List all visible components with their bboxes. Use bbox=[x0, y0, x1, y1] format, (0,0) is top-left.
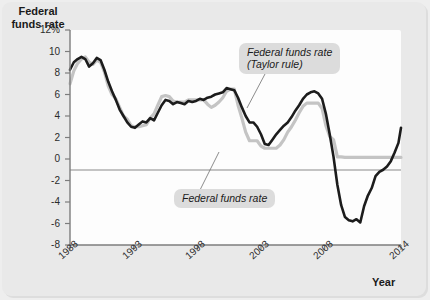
y-tick-label: -6 bbox=[26, 218, 60, 229]
callout-leader-line bbox=[247, 74, 265, 108]
x-axis-title: Year bbox=[372, 276, 412, 289]
axis-frame bbox=[70, 30, 401, 245]
y-tick-label: -2 bbox=[26, 175, 60, 186]
y-tick-label: 6 bbox=[26, 89, 60, 100]
y-tick-label: 12% bbox=[26, 24, 60, 35]
y-tick-label: 0 bbox=[26, 153, 60, 164]
callout-actual-rate: Federal funds rate bbox=[174, 189, 275, 208]
y-tick-label: 4 bbox=[26, 110, 60, 121]
y-tick-label: 8 bbox=[26, 67, 60, 78]
axis-ticks bbox=[65, 30, 401, 250]
y-tick-label: 10 bbox=[26, 46, 60, 57]
callout-leader-line bbox=[200, 152, 219, 190]
y-tick-label: -8 bbox=[26, 239, 60, 250]
y-tick-label: -4 bbox=[26, 196, 60, 207]
callout-taylor-rule: Federal funds rate (Taylor rule) bbox=[239, 43, 340, 74]
callout-leader-lines bbox=[200, 74, 265, 190]
y-tick-label: 2 bbox=[26, 132, 60, 143]
chart-figure: Federal funds rate Year 12%1086420-2-4-6… bbox=[0, 0, 430, 300]
